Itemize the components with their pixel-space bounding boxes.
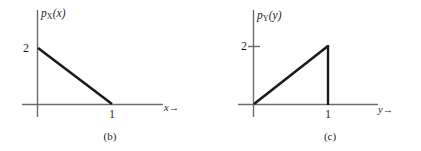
plot-c-canvas xyxy=(210,0,421,151)
y-tick-label-b-2: 2 xyxy=(23,42,29,54)
x-axis-arrow-label-c: y→ xyxy=(378,105,393,116)
x-tick-label-c-1: 1 xyxy=(325,108,331,120)
right-arrow-icon-c: → xyxy=(383,104,394,115)
density-curve-c xyxy=(254,46,328,104)
x-tick-label-b-1: 1 xyxy=(109,108,115,120)
y-axis-label-b: pX(x) xyxy=(41,8,66,21)
right-arrow-icon-b: → xyxy=(169,102,180,113)
x-axis-arrow-label-b: x→ xyxy=(164,103,179,114)
plot-b-canvas xyxy=(0,0,211,151)
y-tick-label-c-2: 2 xyxy=(241,40,247,52)
y-axis-label-c-argument: (y) xyxy=(269,9,282,21)
panel-caption-b: (b) xyxy=(78,131,142,142)
y-axis-label-b-argument: (x) xyxy=(53,7,66,19)
figure-sheet: pX(x) 2 1 x→ (b) pY(y) 2 1 y→ (c) xyxy=(0,0,421,151)
density-curve-b xyxy=(38,48,112,104)
y-axis-label-c: pY(y) xyxy=(257,10,282,23)
plot-panel-c: pY(y) 2 1 y→ (c) xyxy=(210,0,421,151)
panel-caption-c: (c) xyxy=(298,131,362,142)
plot-panel-b: pX(x) 2 1 x→ (b) xyxy=(0,0,211,151)
